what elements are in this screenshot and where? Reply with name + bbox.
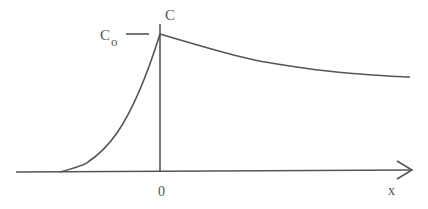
x-axis [16, 170, 411, 172]
c-axis-label: C [165, 7, 175, 23]
origin-label: 0 [158, 184, 165, 199]
x-axis-label: x [388, 183, 395, 198]
rising-curve [60, 34, 160, 172]
co-subscript: o [111, 34, 118, 49]
co-label: C [100, 27, 110, 43]
decay-curve [160, 34, 410, 77]
concentration-diagram: C C o 0 x [0, 0, 428, 209]
